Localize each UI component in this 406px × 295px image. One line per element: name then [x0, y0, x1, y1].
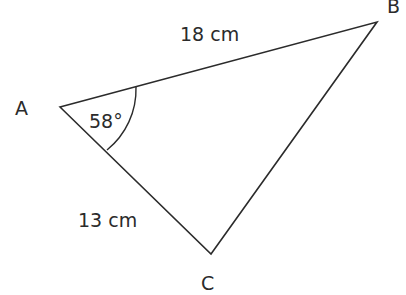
- side-ac-length: 13 cm: [78, 209, 137, 231]
- side-ab-length: 18 cm: [180, 23, 239, 45]
- angle-a-value: 58°: [89, 110, 123, 132]
- vertex-a-label: A: [15, 97, 28, 119]
- triangle-diagram: A B C 18 cm 13 cm 58°: [0, 0, 406, 295]
- vertex-c-label: C: [201, 272, 214, 294]
- vertex-b-label: B: [387, 0, 400, 17]
